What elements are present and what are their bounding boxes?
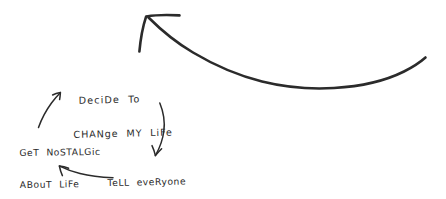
label-decide-line-1: DeciDe To [79,92,173,106]
curve-arrowhead-barb-right [147,15,180,17]
declining-curve [149,18,426,89]
cycle-arrow-up-left-head-b [60,93,61,100]
label-tell-line-1: TeLL eveRyone [107,176,186,188]
curve-arrowhead-barb-down [139,17,146,52]
sketch-canvas: DeciDe To CHANge MY LiFe GeT NoSTALGic A… [0,0,446,199]
label-get-nostalgic-about-life-as-is: GeT NoSTALGic ABouT LiFe AS iS [19,125,102,199]
cycle-arrow-up-left [39,93,60,127]
label-nostalgic-line-2: ABouT LiFe [20,179,101,191]
label-nostalgic-line-1: GeT NoSTALGic [19,147,100,159]
label-tell-everyone-i-know: TeLL eveRyone I KNOW [107,154,187,199]
